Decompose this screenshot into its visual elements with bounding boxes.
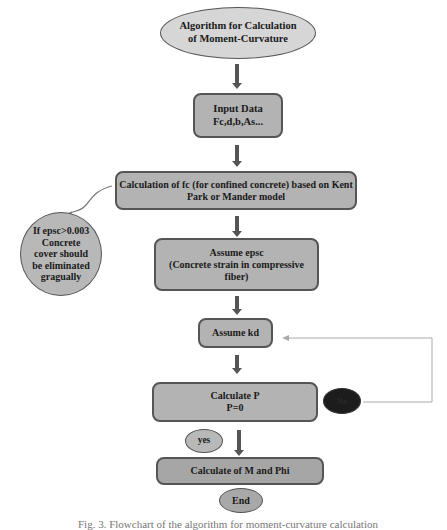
epsc-line3: fiber) — [225, 271, 249, 283]
input-line2: Fc,d,b,As... — [213, 116, 263, 129]
curved-arrow-to-note — [68, 186, 112, 214]
calc-fc-box: Calculation of fc (for confined concrete… — [115, 171, 357, 210]
note-line5: gragually — [41, 271, 82, 283]
assume-epsc-box: Assume epsc (Concrete strain in compress… — [154, 238, 319, 291]
input-line1: Input Data — [213, 103, 262, 116]
note-line4: be eliminated — [32, 260, 90, 272]
m-phi-label: Calculate of M and Phi — [191, 465, 290, 477]
no-label: No — [337, 396, 348, 407]
input-data-box: Input Data Fc,d,b,As... — [193, 93, 283, 138]
note-circle: If epsc>0.003 Concrete cover should be e… — [20, 212, 102, 296]
start-line2: of Moment-Curvature — [188, 33, 288, 46]
figure-caption: Fig. 3. Flowchart of the algorithm for m… — [78, 518, 378, 530]
note-line1: If epsc>0.003 — [33, 225, 89, 237]
arrow-start-to-input — [235, 64, 239, 84]
arrow-kd-to-calc-p — [235, 355, 239, 369]
end-ellipse: End — [219, 488, 263, 513]
calc-fc-line1: Calculation of fc (for confined concrete… — [119, 179, 353, 191]
yes-ellipse: yes — [185, 429, 223, 453]
arrow-calc-p-to-m-phi — [237, 430, 241, 451]
calc-p-box: Calculate P P=0 — [152, 382, 318, 422]
arrow-input-to-calc-fc — [235, 145, 239, 162]
no-ellipse: No — [323, 388, 361, 414]
arrow-epsc-to-kd — [235, 296, 239, 310]
note-line3: cover should — [34, 248, 88, 260]
start-line1: Algorithm for Calculation — [179, 20, 296, 33]
kd-label: Assume kd — [212, 327, 259, 339]
end-label: End — [232, 495, 250, 507]
feedback-arrowhead — [282, 335, 289, 341]
calc-p-line2: P=0 — [227, 402, 244, 414]
note-line2: Concrete — [42, 237, 81, 249]
epsc-line2: (Concrete strain in compressive — [169, 259, 304, 271]
start-ellipse: Algorithm for Calculation of Moment-Curv… — [160, 7, 316, 59]
arrow-calc-fc-to-epsc — [235, 216, 239, 232]
epsc-line1: Assume epsc — [209, 247, 263, 259]
calc-m-phi-box: Calculate of M and Phi — [156, 457, 324, 485]
calc-p-line1: Calculate P — [210, 390, 259, 402]
assume-kd-box: Assume kd — [198, 318, 273, 348]
yes-label: yes — [198, 435, 211, 446]
calc-fc-line2: Park or Mander model — [187, 191, 285, 203]
